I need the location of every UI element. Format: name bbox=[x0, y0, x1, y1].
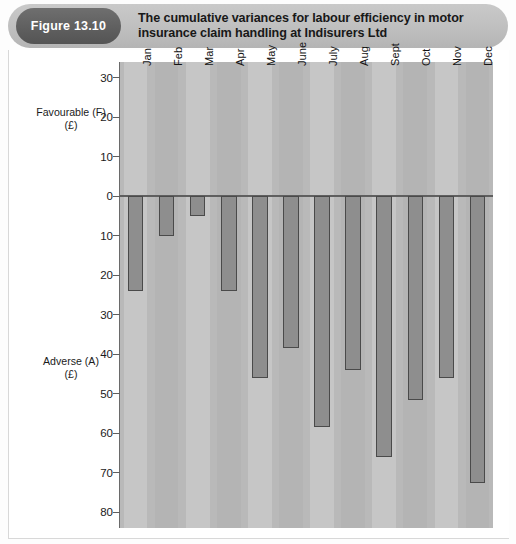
month-label-mar: Mar bbox=[203, 47, 215, 66]
plot-band bbox=[155, 62, 179, 528]
bar-mar bbox=[190, 196, 206, 216]
y-axis-tick-label: 30 bbox=[100, 72, 113, 84]
y-axis-tick bbox=[113, 156, 120, 157]
plot-background-bands bbox=[120, 62, 493, 528]
month-label-nov: Nov bbox=[451, 46, 463, 66]
y-axis-tick-label: 80 bbox=[100, 506, 113, 518]
month-label-feb: Feb bbox=[172, 47, 184, 66]
bar-apr bbox=[221, 196, 237, 291]
y-axis-tick bbox=[113, 393, 120, 394]
bar-dec bbox=[470, 196, 486, 482]
y-axis-tick bbox=[113, 196, 120, 197]
y-axis-tick bbox=[113, 472, 120, 473]
month-label-june: June bbox=[296, 42, 308, 66]
bar-oct bbox=[408, 196, 424, 399]
y-axis-tick bbox=[113, 235, 120, 236]
month-label-jan: Jan bbox=[141, 48, 153, 66]
bar-july bbox=[314, 196, 330, 427]
figure-title: The cumulative variances for labour effi… bbox=[138, 11, 508, 41]
y-axis-tick-label: 60 bbox=[100, 427, 113, 439]
zero-baseline bbox=[120, 195, 493, 197]
y-axis-tick bbox=[113, 433, 120, 434]
bar-aug bbox=[345, 196, 361, 370]
y-axis-tick bbox=[113, 354, 120, 355]
y-axis-tick-label: 20 bbox=[100, 111, 113, 123]
y-axis-tick bbox=[113, 275, 120, 276]
y-axis-tick-label: 30 bbox=[100, 309, 113, 321]
month-label-oct: Oct bbox=[420, 49, 432, 66]
plot-band bbox=[124, 62, 148, 528]
bar-jan bbox=[128, 196, 144, 291]
y-axis-tick bbox=[113, 117, 120, 118]
plot-band bbox=[186, 62, 210, 528]
y-axis-tick-label: 10 bbox=[100, 151, 113, 163]
y-axis-tick-label: 50 bbox=[100, 388, 113, 400]
y-axis-tick bbox=[113, 314, 120, 315]
bar-nov bbox=[439, 196, 455, 378]
bar-sept bbox=[376, 196, 392, 457]
month-label-apr: Apr bbox=[234, 49, 246, 66]
y-axis-labels: 30201001020304050607080 bbox=[69, 62, 113, 528]
y-axis-tick-label: 20 bbox=[100, 269, 113, 281]
bar-feb bbox=[159, 196, 175, 235]
y-axis-tick bbox=[113, 77, 120, 78]
bar-june bbox=[283, 196, 299, 348]
month-label-aug: Aug bbox=[358, 46, 370, 66]
month-label-dec: Dec bbox=[482, 46, 494, 66]
figure-header-banner: Figure 13.10 The cumulative variances fo… bbox=[8, 4, 508, 48]
figure-frame: Favourable (F) (£) Adverse (A) (£) 30201… bbox=[8, 50, 509, 539]
y-axis-tick-label: 10 bbox=[100, 230, 113, 242]
plot-area: JanFebMarAprMayJuneJulyAugSeptOctNovDec bbox=[119, 62, 493, 528]
month-label-may: May bbox=[265, 45, 277, 66]
figure-number-badge: Figure 13.10 bbox=[16, 8, 121, 44]
bar-may bbox=[252, 196, 268, 378]
y-axis-tick bbox=[113, 512, 120, 513]
y-axis-tick-label: 40 bbox=[100, 348, 113, 360]
plot-band bbox=[217, 62, 241, 528]
figure-page: Figure 13.10 The cumulative variances fo… bbox=[0, 0, 516, 544]
month-label-sept: Sept bbox=[389, 43, 401, 66]
month-label-july: July bbox=[327, 46, 339, 66]
y-axis-tick-label: 70 bbox=[100, 467, 113, 479]
